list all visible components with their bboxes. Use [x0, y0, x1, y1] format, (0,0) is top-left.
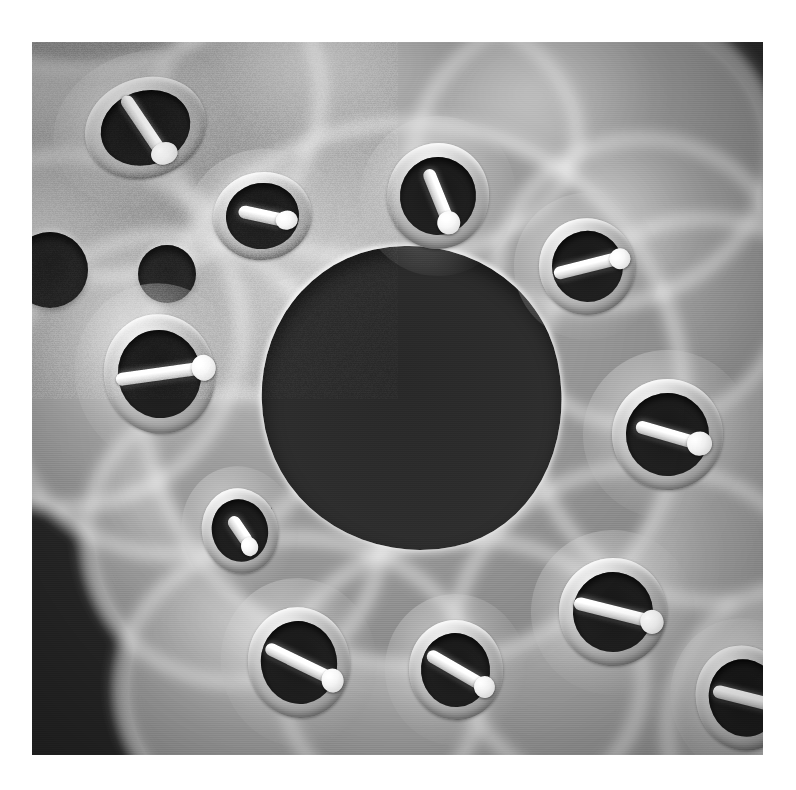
zooid-bottom-right: [548, 547, 679, 678]
zooid-bottom-center: [404, 615, 507, 724]
image-alt-text: Black and white scanning electron microg…: [0, 0, 1, 1]
zooid-center-lower: [193, 480, 287, 581]
zooid-upper-mid-left: [207, 166, 318, 267]
sem-micrograph-plate: [32, 42, 763, 755]
zooid-mid-right: [604, 370, 733, 499]
zooid-bottom-left: [239, 599, 359, 726]
zooid-right-edge: [684, 634, 763, 755]
screenshot-root: Black and white scanning electron microg…: [0, 0, 796, 790]
zooid-mid-left: [93, 303, 227, 443]
zooid-upper-right: [525, 204, 651, 330]
zooid-top-center: [381, 137, 494, 253]
